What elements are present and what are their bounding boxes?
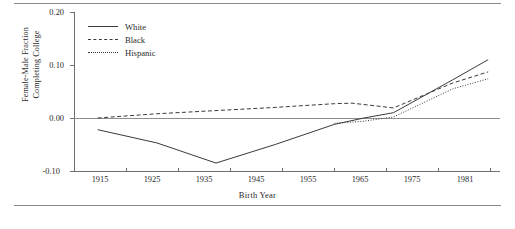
figure-container: Female-Male Fraction Completing College … <box>0 0 515 229</box>
series-line-white <box>98 60 489 163</box>
series-line-black <box>98 72 489 118</box>
data-series-layer <box>0 0 515 229</box>
series-line-hispanic <box>334 79 488 124</box>
chart-plot-area: Female-Male Fraction Completing College … <box>0 0 515 229</box>
